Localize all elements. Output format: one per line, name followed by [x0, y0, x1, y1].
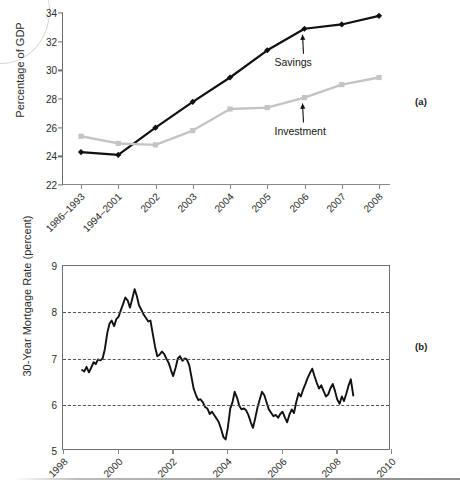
panel-a-y-tick-mark [58, 41, 63, 42]
panel-b-y-axis-title: 30-Year Mortgage Rate (percent) [21, 203, 33, 389]
panel-a-plot-area: 222426283032341986–19931994–200120022003… [62, 13, 390, 185]
figure-page: (a) Percentage of GDP 222426283032341986… [0, 0, 460, 490]
panel-a-x-tick-label: 2002 [138, 191, 162, 215]
panel-b-plot-area: 567891998200020022004200620082010 [62, 265, 390, 450]
panel-b-y-tick-label: 7 [51, 353, 63, 364]
panel-a-annotation-investment: Investment [275, 125, 326, 137]
panel-b-x-tick-mark [227, 449, 228, 454]
panel-a-x-tick-label: 2008 [361, 191, 385, 215]
panel-a-x-tick-mark [267, 184, 268, 189]
panel-a-y-tick-mark [58, 70, 63, 71]
panel-b-y-tick-label: 9 [51, 261, 63, 272]
panel-b-x-tick-mark [63, 449, 64, 454]
panel-b-x-tick-mark [172, 449, 173, 454]
panel-a-x-tick-label: 1986–1993 [44, 191, 87, 234]
panel-a-x-tick-mark [305, 184, 306, 189]
panel-a-x-tick-label: 2006 [287, 191, 311, 215]
panel-b-x-tick-mark [391, 449, 392, 454]
panel-a-x-tick-mark [118, 184, 119, 189]
panel-b-tag: (b) [415, 341, 428, 352]
panel-a-x-tick-mark [230, 184, 231, 189]
panel-a-x-tick-mark [156, 184, 157, 189]
panel-a-x-tick-mark [193, 184, 194, 189]
panel-a-tag: (a) [415, 96, 427, 107]
panel-b-x-tick-mark [282, 449, 283, 454]
panel-a-y-axis-title: Percentage of GDP [14, 10, 26, 130]
panel-a-x-tick-mark [81, 184, 82, 189]
panel-a-x-tick-mark [379, 184, 380, 189]
panel-a-annotation-savings: Savings [275, 56, 312, 68]
panel-b-y-tick-label: 6 [51, 399, 63, 410]
panel-a-x-tick-label: 2004 [212, 191, 236, 215]
panel-a-x-tick-label: 2003 [175, 191, 199, 215]
panel-a-x-tick-label: 1994–2001 [81, 191, 124, 234]
panel-b-x-tick-mark [336, 449, 337, 454]
panel-b-x-tick-mark [118, 449, 119, 454]
panel-a-y-tick-mark [58, 184, 63, 185]
panel-b-gridline [63, 359, 389, 360]
panel-a-series-layer [63, 13, 391, 185]
panel-a-x-tick-mark [342, 184, 343, 189]
panel-a: (a) Percentage of GDP 222426283032341986… [0, 0, 460, 245]
panel-b-gridline [63, 405, 389, 406]
panel-b-gridline [63, 312, 389, 313]
panel-a-y-tick-mark [58, 127, 63, 128]
panel-a-y-tick-mark [58, 98, 63, 99]
panel-b-y-tick-label: 8 [51, 307, 63, 318]
panel-a-x-tick-label: 2005 [250, 191, 274, 215]
panel-a-y-tick-mark [58, 12, 63, 13]
panel-a-x-tick-label: 2007 [324, 191, 348, 215]
panel-a-y-tick-mark [58, 156, 63, 157]
